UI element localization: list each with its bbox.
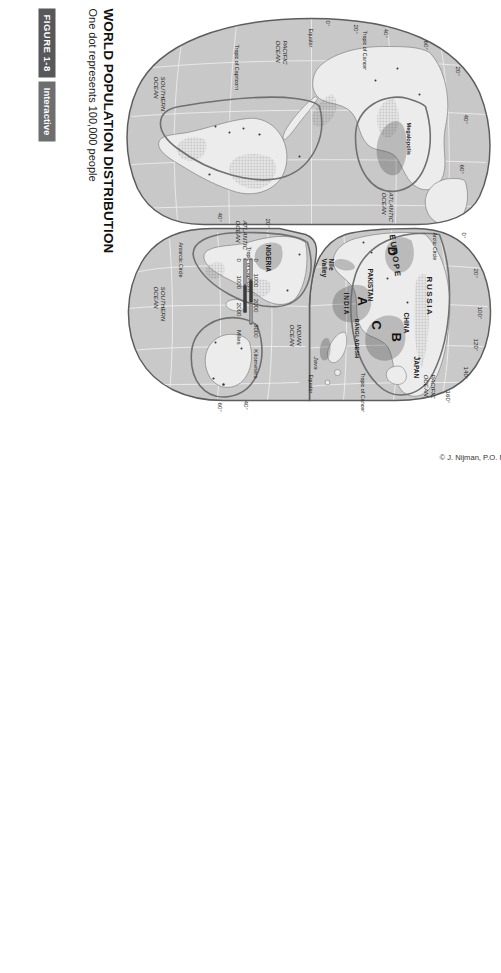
map-tick-60-lat-w: 60° <box>422 40 429 49</box>
map-line-equator-east: Equator <box>307 374 313 393</box>
map-label-atlantic-ocean-south: ATLANTIC OCEAN <box>234 220 247 246</box>
map-label-japan: JAPAN <box>412 356 419 378</box>
world-population-map[interactable]: RUSSIA EUROPE CHINA JAPAN INDIA PAKISTAN… <box>123 6 495 446</box>
map-label-java: Java <box>312 356 319 369</box>
scale-km-ticks: 0 1000 2000 3000 Kilometers <box>252 258 259 378</box>
map-label-nile-valley: Nile Valley <box>319 258 333 284</box>
map-tick-40-w1: 40° <box>462 114 469 123</box>
map-label-india: INDIA <box>342 292 349 315</box>
map-label-megalopolis: Megalopolis <box>405 122 411 154</box>
map-line-antarctic-circle: Antarctic Circle <box>177 242 183 277</box>
map-tick-40-lat-w: 40° <box>382 28 389 37</box>
map-label-nigeria: NIGERIA <box>264 244 271 271</box>
scale-mi-unit: Miles <box>235 330 242 344</box>
map-marker-d: D <box>384 246 399 255</box>
map-line-equator-west: Equator <box>307 28 313 47</box>
map-label-southern-ocean-east: SOUTHERN OCEAN <box>152 286 165 316</box>
map-label-atlantic-ocean-west: ATLANTIC OCEAN <box>380 192 393 218</box>
map-scale-bar: 0 1000 2000 3000 Kilometers 0 1000 2000 … <box>235 258 259 378</box>
map-label-bangladesh: BANGLADESH <box>353 318 359 357</box>
map-label-pacific-ocean-east: PACIFIC OCEAN <box>422 374 435 398</box>
figure-subtitle: One dot represents 100,000 people <box>86 8 98 438</box>
map-tick-40-lat-s: 40° <box>216 212 223 221</box>
map-label-pacific-ocean-west: PACIFIC OCEAN <box>274 40 287 64</box>
map-marker-c: C <box>368 320 383 329</box>
scale-mi-0: 0 <box>235 258 242 261</box>
copyright-notice: © J. Nijman, P.O. Muller and John Wiley … <box>439 452 501 461</box>
map-label-southern-ocean-west: SOUTHERN OCEAN <box>152 76 165 106</box>
map-tick-0-east: 0° <box>460 232 467 238</box>
map-label-china: CHINA <box>402 312 409 333</box>
map-tick-0-west: 0° <box>324 20 331 26</box>
map-line-tropic-cancer-west: Tropic of Cancer <box>361 30 367 70</box>
map-marker-b: B <box>388 332 403 341</box>
figure-canvas: RUSSIA EUROPE CHINA JAPAN INDIA PAKISTAN… <box>0 0 501 973</box>
map-line-arctic-circle: Arctic Circle <box>431 232 437 260</box>
map-line-tropic-capricorn-west: Tropic of Capricorn <box>233 44 239 90</box>
map-marker-a: A <box>354 296 369 305</box>
map-tick-100-e: 100° <box>476 306 483 319</box>
scale-km-1000: 1000 <box>252 273 259 287</box>
scale-mi-ticks: 0 1000 2000 Miles <box>235 258 242 344</box>
scale-mi-2000: 2000 <box>235 302 242 316</box>
scale-km-bar <box>248 258 252 378</box>
map-tick-20-lat-s: 20° <box>264 218 271 227</box>
map-tick-60-lat-e: 60° <box>216 402 223 411</box>
scale-km-3000: 3000 <box>252 323 259 337</box>
map-line-tropic-cancer-east: Tropic of Cancer <box>359 372 365 412</box>
map-label-indian-ocean: INDIAN OCEAN <box>288 324 301 350</box>
scale-mi-bar <box>242 258 246 378</box>
map-tick-60-w1: 60° <box>458 164 465 173</box>
map-tick-40-lat-e: 40° <box>242 400 249 409</box>
map-tick-20-w1: 20° <box>454 66 461 75</box>
map-label-russia: RUSSIA <box>424 276 433 316</box>
figure-badge-row: FIGURE 1-8 Interactive <box>38 8 55 141</box>
scale-km-unit: Kilometers <box>252 349 259 378</box>
scale-km-0: 0 <box>252 258 259 261</box>
map-tick-140-e: 140° <box>462 366 469 379</box>
map-tick-20-e1: 20° <box>472 268 479 277</box>
figure-title: WORLD POPULATION DISTRIBUTION <box>100 8 115 438</box>
figure-number-badge: FIGURE 1-8 <box>38 8 55 77</box>
map-tick-160-e: 160° <box>444 390 451 403</box>
map-tick-120-e: 120° <box>472 338 479 351</box>
interactive-badge[interactable]: Interactive <box>38 81 55 141</box>
figure-caption: WORLD POPULATION DISTRIBUTION One dot re… <box>86 8 115 438</box>
map-tick-20-lat-w: 20° <box>352 24 359 33</box>
scale-km-2000: 2000 <box>252 298 259 312</box>
scale-mi-1000: 1000 <box>235 275 242 289</box>
